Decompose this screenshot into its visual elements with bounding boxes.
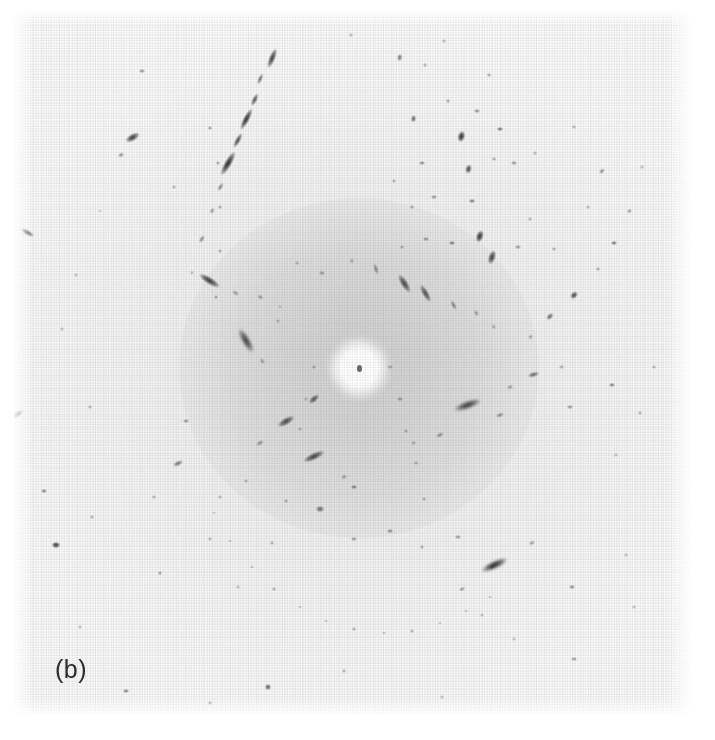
diffraction-plate <box>14 11 690 715</box>
panel-label: (b) <box>55 655 87 684</box>
beam-stop-core <box>357 365 362 372</box>
diffraction-figure: (b) <box>0 0 715 740</box>
beam-stop-disc <box>338 347 380 389</box>
